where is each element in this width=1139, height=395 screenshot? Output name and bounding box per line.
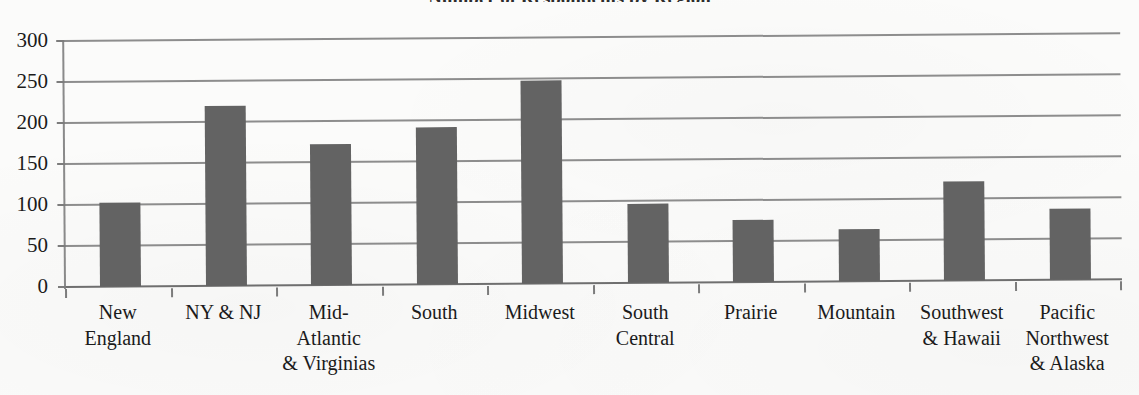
bar: [99, 202, 141, 287]
x-axis-tick: [276, 287, 278, 296]
bar: [415, 128, 457, 285]
bar: [310, 144, 352, 285]
y-axis-tick-label: 0: [0, 276, 48, 297]
y-axis-tick: [56, 40, 64, 42]
y-axis-tick-label: 150: [0, 153, 48, 174]
x-axis-tick: [803, 284, 805, 293]
x-axis-tick: [1014, 282, 1016, 291]
x-axis-tick: [487, 286, 489, 295]
y-axis-tick-label: 100: [0, 194, 48, 215]
bar: [204, 106, 246, 286]
x-axis-tick: [65, 289, 67, 298]
y-axis-tick-label: 50: [0, 235, 48, 256]
gridline: [63, 73, 1120, 83]
bar: [1049, 208, 1091, 280]
y-axis-tick: [58, 286, 66, 288]
x-axis-tick-label: Pacific Northwest & Alaska: [997, 300, 1137, 377]
gridline: [63, 32, 1120, 42]
y-axis-tick: [56, 81, 64, 83]
x-axis-tick: [382, 287, 384, 296]
x-axis-tick: [909, 283, 911, 292]
y-axis-tick: [57, 122, 65, 124]
x-axis-tick: [698, 284, 700, 293]
y-axis-tick-label: 300: [0, 30, 48, 51]
bar: [520, 80, 562, 284]
y-axis-tick-label: 250: [0, 71, 48, 92]
x-axis-tick: [171, 288, 173, 297]
x-axis-tick: [593, 285, 595, 294]
bar: [627, 204, 669, 283]
y-axis-tick: [57, 163, 65, 165]
y-axis-tick: [58, 245, 66, 247]
bar: [838, 229, 879, 281]
x-axis-tick: [1120, 281, 1122, 290]
y-axis-tick-label: 200: [0, 112, 48, 133]
bar-chart: Number of Respondents by Region 30025020…: [0, 0, 1139, 395]
y-axis-tick: [57, 204, 65, 206]
bar: [733, 219, 774, 282]
bar: [943, 181, 985, 281]
